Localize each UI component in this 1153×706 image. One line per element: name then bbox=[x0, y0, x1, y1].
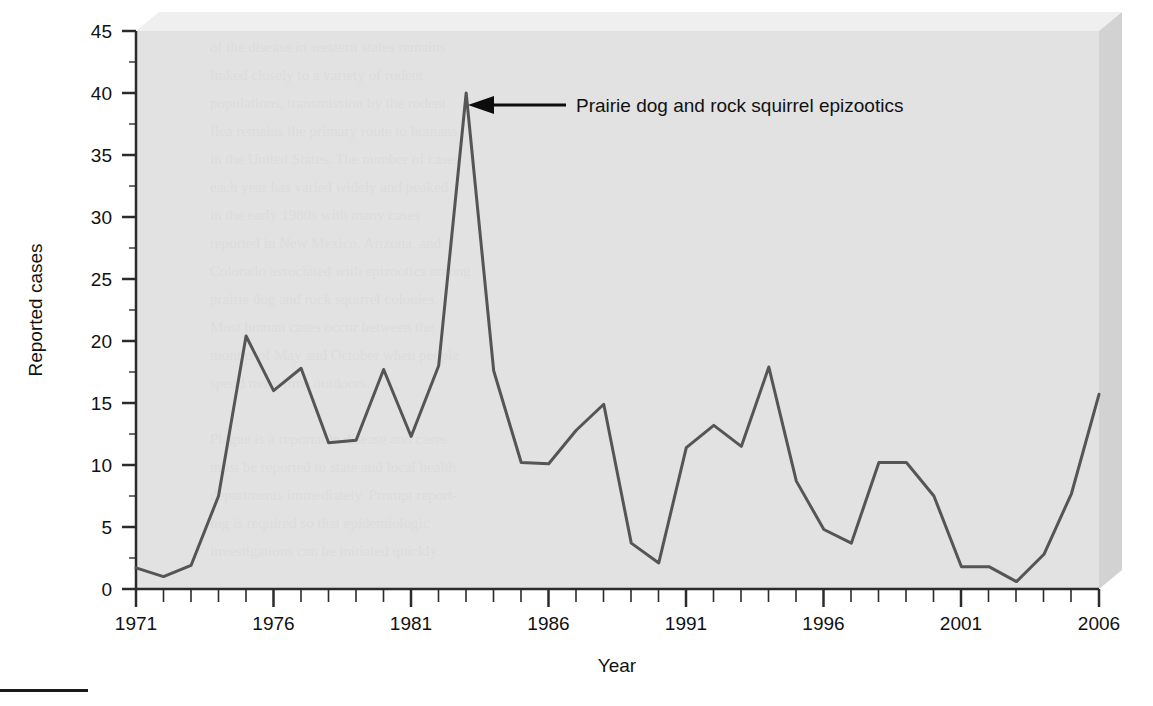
svg-text:populations, transmission by t: populations, transmission by the rodent bbox=[210, 95, 447, 111]
x-tick-label: 1981 bbox=[390, 613, 432, 634]
x-tick-labels: 1971 1976 1981 1986 1991 1996 2001 2006 bbox=[115, 613, 1120, 634]
line-chart: of the disease in western states remains… bbox=[0, 0, 1153, 706]
panel-top-bevel bbox=[136, 12, 1122, 31]
svg-text:investigations can be initiate: investigations can be initiated quickly. bbox=[210, 543, 440, 559]
svg-text:linked closely to a variety of: linked closely to a variety of rodent bbox=[210, 67, 424, 83]
x-axis-major-ticks bbox=[136, 589, 1099, 607]
svg-text:prairie dog and rock squirrel: prairie dog and rock squirrel colonies. bbox=[210, 291, 438, 307]
svg-text:of the disease in western stat: of the disease in western states remains bbox=[210, 39, 446, 55]
x-tick-label: 1986 bbox=[527, 613, 569, 634]
svg-text:in the early 1980s with many c: in the early 1980s with many cases bbox=[210, 207, 420, 223]
y-axis: 45 40 35 30 25 20 15 10 5 0 Reported cas… bbox=[25, 21, 136, 600]
y-tick-label: 0 bbox=[101, 579, 112, 600]
x-tick-label: 1991 bbox=[665, 613, 707, 634]
x-tick-label: 2006 bbox=[1078, 613, 1120, 634]
svg-text:Colorado associated with epizo: Colorado associated with epizootics amon… bbox=[210, 263, 471, 279]
x-tick-label: 1971 bbox=[115, 613, 157, 634]
x-axis-minor-ticks bbox=[164, 589, 1072, 602]
footer-rule bbox=[0, 689, 88, 692]
y-tick-labels: 45 40 35 30 25 20 15 10 5 0 bbox=[91, 21, 112, 600]
annotation-label: Prairie dog and rock squirrel epizootics bbox=[576, 95, 903, 116]
y-tick-label: 45 bbox=[91, 21, 112, 42]
svg-text:departments immediately. Promp: departments immediately. Prompt report- bbox=[210, 487, 457, 503]
svg-text:each year has varied widely an: each year has varied widely and peaked bbox=[210, 179, 449, 195]
y-tick-label: 25 bbox=[91, 269, 112, 290]
svg-text:Most human cases occur between: Most human cases occur between the bbox=[210, 319, 434, 335]
x-axis: 1971 1976 1981 1986 1991 1996 2001 2006 … bbox=[115, 589, 1120, 676]
y-tick-label: 40 bbox=[91, 83, 112, 104]
y-tick-label: 5 bbox=[101, 517, 112, 538]
y-tick-label: 15 bbox=[91, 393, 112, 414]
y-tick-label: 30 bbox=[91, 207, 112, 228]
y-tick-label: 35 bbox=[91, 145, 112, 166]
figure-container: of the disease in western states remains… bbox=[0, 0, 1153, 706]
panel-right-bevel bbox=[1099, 12, 1122, 589]
x-axis-title: Year bbox=[598, 655, 637, 676]
svg-text:ing is required so that epidem: ing is required so that epidemiologic bbox=[210, 515, 430, 531]
svg-text:months of May and October when: months of May and October when people bbox=[210, 347, 459, 363]
y-axis-title: Reported cases bbox=[25, 243, 46, 376]
x-tick-label: 1976 bbox=[252, 613, 294, 634]
y-tick-label: 20 bbox=[91, 331, 112, 352]
svg-text:must be reported to state and: must be reported to state and local heal… bbox=[210, 459, 457, 475]
svg-text:in the United States. The numb: in the United States. The number of case… bbox=[210, 151, 460, 167]
svg-text:flea remains the primary route: flea remains the primary route to humans bbox=[210, 123, 458, 139]
svg-text:reported in New Mexico, Arizon: reported in New Mexico, Arizona, and bbox=[210, 235, 442, 251]
x-tick-label: 1996 bbox=[802, 613, 844, 634]
y-tick-label: 10 bbox=[91, 455, 112, 476]
x-tick-label: 2001 bbox=[940, 613, 982, 634]
